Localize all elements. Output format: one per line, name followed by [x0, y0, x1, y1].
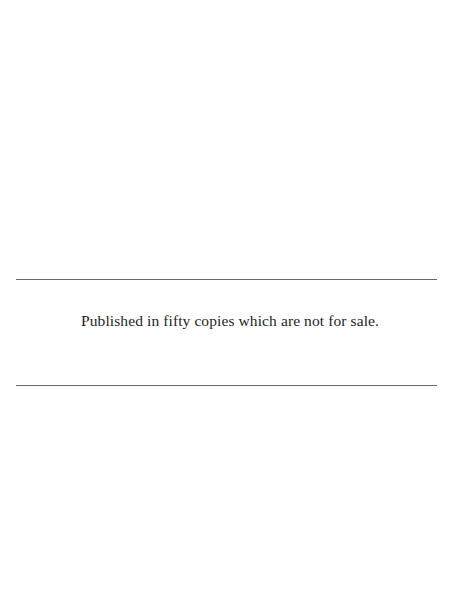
bottom-rule-divider: [16, 385, 437, 386]
colophon-text: Published in fifty copies which are not …: [0, 312, 460, 330]
top-rule-divider: [16, 279, 437, 280]
